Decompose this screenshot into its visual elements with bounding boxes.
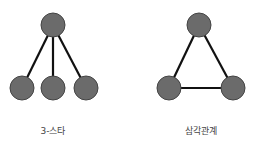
node-leaf — [74, 76, 98, 100]
three-star-label: 3-스타 — [13, 124, 93, 137]
triangle-label: 삼각관계 — [161, 124, 241, 137]
node-leaf — [41, 76, 65, 100]
three-star-diagram — [10, 13, 98, 100]
node — [187, 13, 211, 37]
node — [221, 76, 245, 100]
node-leaf — [10, 76, 34, 100]
triangle-diagram — [157, 13, 245, 100]
node-center — [41, 13, 65, 37]
node — [157, 76, 181, 100]
